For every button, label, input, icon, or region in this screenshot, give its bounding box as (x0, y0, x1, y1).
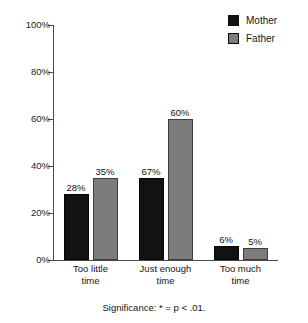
bar-father-3: 5% (243, 248, 268, 260)
category-label-line: time (128, 275, 203, 287)
bar-mother-1: 28% (64, 194, 89, 260)
bar-mother-3: 6% (214, 246, 239, 260)
x-axis-line (53, 260, 278, 261)
category-label-line: Just enough (128, 263, 203, 275)
y-tick-label: 0% (36, 254, 50, 265)
significance-caption: Significance: * = p < .01. (0, 302, 308, 314)
y-axis-line (53, 25, 54, 261)
bar-value-label: 28% (66, 182, 85, 193)
plot-area: 0%20%40%60%80%100% 28%35%67%60%6%5% Too … (53, 25, 278, 260)
bar-value-label: 60% (170, 107, 189, 118)
category-label-2: Just enoughtime (128, 263, 203, 286)
bar-chart-figure: Mother Father 0%20%40%60%80%100% 28%35%6… (0, 0, 308, 323)
y-tick-label: 80% (31, 66, 50, 77)
y-tick-label: 40% (31, 160, 50, 171)
bar-value-label: 67% (141, 166, 160, 177)
bar-mother-2: 67% (139, 178, 164, 260)
category-label-line: Too little (53, 263, 128, 275)
y-tick-label: 60% (31, 113, 50, 124)
category-label-line: time (203, 275, 278, 287)
category-label-line: time (53, 275, 128, 287)
y-tick-label: 20% (31, 207, 50, 218)
bar-father-1: 35% (93, 178, 118, 260)
bar-value-label: 6% (219, 234, 233, 245)
category-label-3: Too muchtime (203, 263, 278, 286)
bar-value-label: 35% (95, 166, 114, 177)
bar-father-2: 60% (168, 119, 193, 260)
category-label-1: Too littletime (53, 263, 128, 286)
y-tick-label: 100% (26, 19, 50, 30)
category-label-line: Too much (203, 263, 278, 275)
bar-value-label: 5% (248, 236, 262, 247)
